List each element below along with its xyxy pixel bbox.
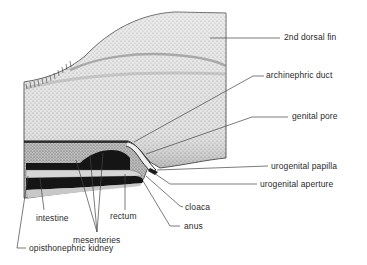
label-opisthonephric-kidney: opisthonephric kidney bbox=[29, 243, 113, 253]
label-rectum: rectum bbox=[110, 211, 137, 221]
label-cloaca: cloaca bbox=[185, 202, 210, 212]
label-intestine: intestine bbox=[36, 213, 69, 223]
label-urogenital-aperture: urogenital aperture bbox=[260, 179, 333, 189]
label-urogenital-papilla: urogenital papilla bbox=[271, 161, 337, 171]
label-archinephric-duct: archinephric duct bbox=[266, 70, 332, 80]
label-2nd-dorsal-fin: 2nd dorsal fin bbox=[284, 32, 336, 42]
label-genital-pore: genital pore bbox=[292, 111, 338, 121]
diagram-canvas: 2nd dorsal fin archinephric duct genital… bbox=[0, 0, 367, 265]
label-anus: anus bbox=[184, 221, 203, 231]
